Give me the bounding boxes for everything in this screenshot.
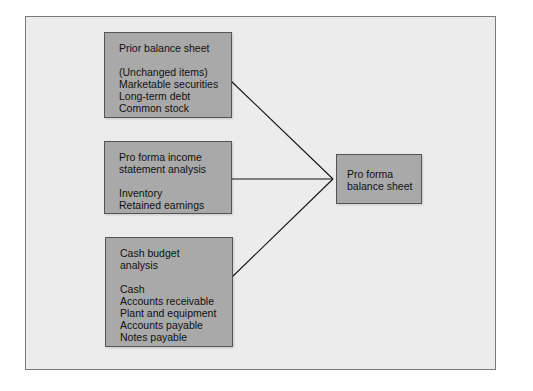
box-title: analysis [120,259,232,271]
list-item: Plant and equipment [120,307,232,319]
box-prior-balance-sheet: Prior balance sheet (Unchanged items) Ma… [104,32,232,118]
connector-cash-budget [231,179,333,278]
box-title: Pro forma income [119,151,231,163]
box-title: statement analysis [119,163,231,175]
box-pro-forma-income-statement: Pro forma income statement analysis Inve… [104,141,232,214]
box-title: Prior balance sheet [119,42,231,54]
box-pro-forma-balance-sheet: Pro forma balance sheet [336,154,422,204]
list-item: Common stock [119,102,231,114]
list-item: Accounts receivable [120,295,232,307]
connector-prior-balance-sheet [231,81,333,179]
list-item: Notes payable [120,331,232,343]
box-title: Cash budget [120,247,232,259]
box-title: balance sheet [347,180,421,192]
connector-lines [0,0,533,391]
list-item: Accounts payable [120,319,232,331]
list-item: (Unchanged items) [119,66,231,78]
list-item: Long-term debt [119,90,231,102]
list-item: Inventory [119,187,231,199]
list-item: Marketable securities [119,78,231,90]
box-cash-budget-analysis: Cash budget analysis Cash Accounts recei… [105,237,233,347]
box-title: Pro forma [347,168,421,180]
list-item: Cash [120,283,232,295]
list-item: Retained earnings [119,199,231,211]
